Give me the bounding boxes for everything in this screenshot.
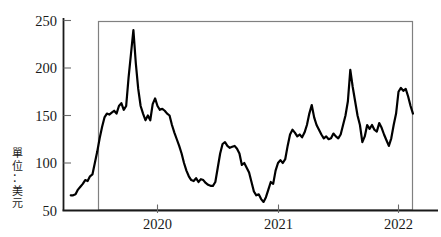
- y-axis-title-char-4: 元: [8, 198, 26, 211]
- plot-frame: [99, 22, 413, 211]
- line-chart: 250 200 150 100 50 2020 2021 2022: [0, 0, 441, 237]
- y-tick-label-200: 200: [35, 60, 57, 76]
- x-tick-marks: [158, 205, 399, 214]
- x-tick-label-2021: 2021: [264, 216, 293, 232]
- y-tick-marks: [64, 21, 72, 164]
- x-tick-label-2022: 2022: [384, 216, 413, 232]
- y-tick-label-50: 50: [43, 203, 58, 219]
- y-tick-label-150: 150: [35, 108, 57, 124]
- y-axis-title-char-2: ：: [8, 173, 26, 186]
- x-tick-label-2020: 2020: [143, 216, 172, 232]
- y-axis-title: 單 位 ： 美 元: [8, 148, 26, 211]
- y-axis-title-char-0: 單: [8, 148, 26, 161]
- y-tick-label-250: 250: [35, 13, 57, 29]
- price-line: [71, 30, 413, 202]
- chart-figure: 250 200 150 100 50 2020 2021 2022 單 位 ： …: [0, 0, 441, 237]
- y-tick-label-100: 100: [35, 155, 57, 171]
